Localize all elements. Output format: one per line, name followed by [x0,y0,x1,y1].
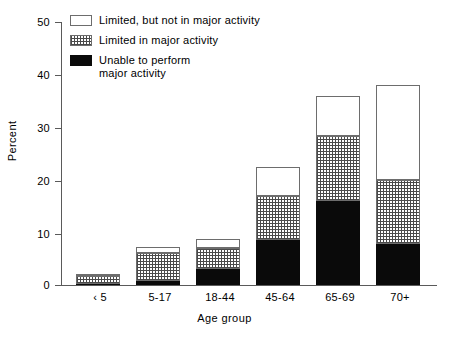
segment-limited-not-major-5 [376,85,420,180]
x-tick-label-0: ‹ 5 [68,291,132,303]
segment-unable-to-perform-1 [136,281,180,285]
bar-group-3 [256,167,300,285]
y-tick-label-40: 40 [20,69,50,81]
bar-group-5 [376,85,420,285]
legend-item-unable-to-perform: Unable to perform major activity [70,54,260,80]
y-tick-label-30: 30 [20,122,50,134]
segment-limited-in-major-5 [376,180,420,244]
black-swatch-icon [70,55,92,66]
segment-limited-not-major-0 [76,274,120,276]
x-tick-label-5: 70+ [368,291,432,303]
segment-limited-not-major-2 [196,239,240,248]
y-tick-40 [55,75,62,76]
x-tick-label-2: 18-44 [188,291,252,303]
legend-label-0: Limited, but not in major activity [99,14,260,27]
y-tick-10 [55,234,62,235]
legend-item-limited-in-major: Limited in major activity [70,34,260,47]
y-axis-line [61,22,62,286]
bar-group-1 [136,247,180,285]
y-tick-20 [55,181,62,182]
bar-group-0 [76,274,120,285]
white-swatch-icon [70,15,92,26]
y-tick-label-50: 50 [20,16,50,28]
y-tick-30 [55,128,62,129]
segment-limited-not-major-1 [136,247,180,254]
segment-limited-not-major-4 [316,96,360,137]
segment-limited-in-major-1 [136,253,180,281]
y-tick-label-20: 20 [20,175,50,187]
y-tick-50 [55,22,62,23]
segment-limited-in-major-2 [196,248,240,269]
segment-limited-in-major-3 [256,196,300,241]
segment-limited-in-major-0 [76,276,120,284]
legend: Limited, but not in major activity Limit… [70,14,260,87]
segment-unable-to-perform-3 [256,240,300,285]
segment-unable-to-perform-2 [196,269,240,285]
segment-unable-to-perform-5 [376,244,420,285]
x-tick-label-3: 45-64 [248,291,312,303]
x-tick-label-1: 5-17 [128,291,192,303]
bar-group-4 [316,96,360,285]
legend-item-limited-not-major: Limited, but not in major activity [70,14,260,27]
segment-unable-to-perform-4 [316,201,360,285]
y-tick-label-10: 10 [20,228,50,240]
x-axis-line [61,285,437,286]
y-tick-label-0: 0 [20,279,50,291]
segment-limited-in-major-4 [316,136,360,201]
x-axis-label: Age group [0,312,449,324]
y-axis-label: Percent [6,101,18,181]
legend-label-1: Limited in major activity [99,34,218,47]
bar-group-2 [196,239,240,285]
dotted-swatch-icon [70,35,92,46]
x-tick-label-4: 65-69 [308,291,372,303]
bar-chart: Percent 50 40 30 20 10 0 Age group ‹ 5 5… [0,0,449,337]
segment-limited-not-major-3 [256,167,300,196]
legend-label-2: Unable to perform major activity [99,54,190,80]
